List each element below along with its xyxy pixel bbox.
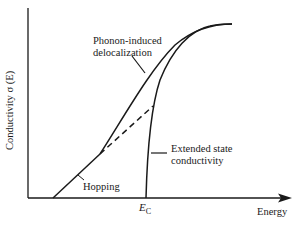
dashed-extrapolation	[100, 106, 153, 154]
diagram-canvas	[0, 0, 305, 225]
phonon-label-line1: Phonon-induced	[93, 35, 162, 47]
extended-state-curve	[146, 24, 232, 198]
extended-label-line2: conductivity	[171, 155, 224, 167]
ec-label: EC	[139, 201, 151, 216]
hopping-leader	[78, 175, 84, 180]
x-axis-label: Energy	[257, 206, 287, 218]
hopping-label: Hopping	[83, 181, 120, 193]
ec-label-main: E	[139, 201, 146, 213]
phonon-label-line2: delocalization	[93, 47, 152, 59]
ec-label-sub: C	[146, 207, 151, 216]
extended-label-line1: Extended state	[171, 143, 233, 155]
y-axis-label: Conductivity σ (E)	[4, 71, 15, 150]
